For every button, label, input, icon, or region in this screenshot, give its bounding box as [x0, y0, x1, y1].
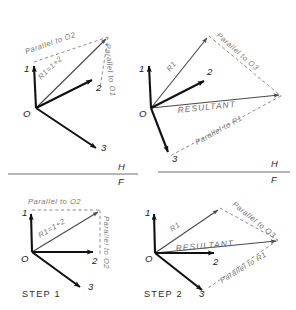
- vector-2-label: 2: [91, 255, 98, 266]
- vector-1-arrow: [31, 214, 32, 252]
- label-resultant-r1: R1=1+2: [36, 216, 67, 239]
- vector-3-arrow: [155, 253, 202, 290]
- vector-3-label: 3: [101, 142, 107, 153]
- label-resultant: RESULTANT: [177, 99, 236, 115]
- reference-label-f-left: F: [118, 176, 125, 187]
- label-parallel-to-o2-right: Parallel to O2: [102, 216, 111, 269]
- label-parallel-to-o3: Parallel to O3: [231, 200, 278, 241]
- label-r1: R1: [165, 59, 179, 73]
- label-parallel-to-o2-top: Parallel to O2: [28, 197, 81, 206]
- step-label: STEP 2: [144, 289, 183, 299]
- vector-2-label: 2: [212, 256, 219, 267]
- vector-1-label: 1: [22, 207, 27, 218]
- label-parallel-to-r1: Parallel to R1: [218, 250, 268, 285]
- h-f-reference-line: H F H F: [8, 158, 290, 187]
- vector-1-arrow: [154, 214, 155, 253]
- vector-2-label: 2: [206, 66, 213, 77]
- label-parallel-to-o2: Parallel to O2: [24, 30, 77, 56]
- reference-label-f-right: F: [271, 174, 278, 185]
- vector-1-label: 1: [139, 63, 144, 74]
- reference-label-h-right: H: [271, 158, 278, 169]
- panel-bottom-left: 1 2 3 O Parallel to O2 Parallel to O2 R1…: [21, 197, 111, 299]
- label-parallel-to-r1: Parallel to R1: [194, 113, 244, 146]
- vector-3-label: 3: [172, 153, 178, 164]
- vector-1-label: 1: [24, 63, 29, 74]
- origin-label: O: [145, 253, 153, 264]
- vector-2-arrow: [36, 80, 92, 108]
- vector-3-arrow: [36, 108, 96, 148]
- vector-1-arrow: [149, 66, 151, 108]
- panel-bottom-right: 1 2 3 O Parallel to O3 Parallel to R1 R1…: [144, 200, 278, 299]
- label-parallel-to-o1: Parallel to O1: [103, 43, 117, 97]
- construction-line-parallel-to-o3: [209, 36, 281, 96]
- panel-top-right: 1 2 3 O Parallel to O3 Parallel to R1 R1…: [139, 31, 281, 164]
- step-label: STEP 1: [22, 289, 61, 299]
- origin-label: O: [139, 108, 147, 119]
- label-parallel-to-o3: Parallel to O3: [215, 31, 261, 73]
- vector-3-label: 3: [88, 281, 94, 292]
- label-resultant: RESULTANT: [175, 238, 234, 253]
- vector-3-label: 3: [199, 288, 205, 299]
- vector-3-arrow: [151, 108, 168, 152]
- origin-label: O: [23, 108, 31, 119]
- label-r1: R1: [168, 220, 182, 234]
- vector-3-arrow: [32, 252, 80, 287]
- origin-label: O: [21, 253, 29, 264]
- panel-top-left: 1 2 3 O Parallel to O2 Parallel to O1 R1…: [23, 30, 118, 153]
- reference-label-h-left: H: [118, 161, 125, 172]
- resultant-vector-r1: [151, 38, 207, 108]
- vector-2-label: 2: [95, 82, 102, 93]
- vector-diagram-figure: 1 2 3 O Parallel to O2 Parallel to O1 R1…: [0, 0, 296, 310]
- vector-1-label: 1: [145, 207, 150, 218]
- label-resultant-r1: R1=1+2: [36, 54, 64, 82]
- vector-1-arrow: [34, 66, 36, 108]
